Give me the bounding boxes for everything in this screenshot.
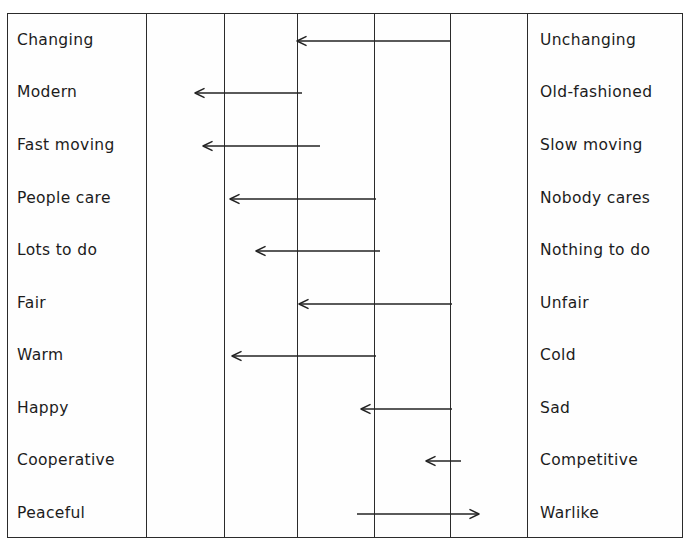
right-label-row-3: Slow moving [540,138,643,154]
column-divider-6 [527,13,528,538]
right-label-row-8: Sad [540,401,570,417]
left-label-row-9: Cooperative [17,453,115,469]
column-divider-1 [146,13,147,538]
left-label-row-4: People care [17,191,111,207]
right-label-row-10: Warlike [540,506,599,522]
left-label-row-6: Fair [17,296,46,312]
column-divider-4 [374,13,375,538]
left-label-row-8: Happy [17,401,69,417]
column-divider-3 [297,13,298,538]
semantic-differential-figure: ChangingModernFast movingPeople careLots… [0,0,686,551]
left-label-row-7: Warm [17,348,63,364]
column-divider-5 [450,13,451,538]
right-label-row-1: Unchanging [540,33,636,49]
right-label-row-4: Nobody cares [540,191,650,207]
left-label-row-1: Changing [17,33,94,49]
left-label-row-5: Lots to do [17,243,97,259]
right-label-row-9: Competitive [540,453,638,469]
right-label-row-2: Old-fashioned [540,85,652,101]
right-label-row-7: Cold [540,348,576,364]
right-label-row-5: Nothing to do [540,243,650,259]
left-label-row-2: Modern [17,85,77,101]
left-label-row-10: Peaceful [17,506,85,522]
right-label-row-6: Unfair [540,296,589,312]
column-divider-2 [224,13,225,538]
left-label-row-3: Fast moving [17,138,115,154]
